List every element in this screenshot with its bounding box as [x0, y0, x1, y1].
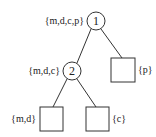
- leaf-p-square: [111, 58, 135, 82]
- edge-2-c: [77, 79, 96, 107]
- leaf-p-set: {p}: [138, 64, 153, 75]
- node-1-set: {m,d,c,p}: [45, 15, 84, 26]
- leaf-md-set: {m,d}: [11, 113, 36, 124]
- leaf-p: {p}: [111, 58, 153, 82]
- leaf-c-set: {c}: [112, 113, 126, 124]
- leaf-md: {m,d}: [11, 107, 63, 131]
- leaf-c-square: [86, 107, 109, 131]
- edge-1-p: [101, 29, 122, 58]
- node-2-label: 2: [69, 64, 75, 78]
- node-1: 1 {m,d,c,p}: [45, 12, 105, 30]
- node-1-label: 1: [93, 14, 99, 28]
- edge-1-2: [77, 29, 91, 63]
- tree-diagram: 1 {m,d,c,p} 2 {m,d,c} {p} {m,d} {c}: [0, 0, 156, 137]
- node-2: 2 {m,d,c}: [28, 62, 81, 80]
- leaf-c: {c}: [86, 107, 126, 131]
- leaf-md-square: [40, 107, 63, 131]
- edge-2-md: [53, 79, 67, 107]
- node-2-set: {m,d,c}: [28, 65, 60, 76]
